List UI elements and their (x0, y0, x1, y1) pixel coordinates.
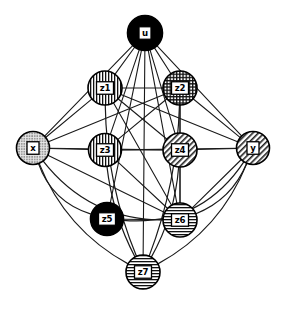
graph-node-z1[interactable]: z1 (88, 71, 122, 105)
graph-edge (192, 159, 242, 208)
node-label-z2: z2 (175, 83, 186, 93)
node-label-y: y (250, 143, 256, 153)
graph-node-x[interactable]: x (17, 132, 50, 165)
graph-edge (143, 50, 145, 256)
graph-node-z5[interactable]: z5 (91, 203, 124, 236)
graph-node-z3[interactable]: z3 (89, 134, 122, 167)
graph-node-u[interactable]: u (128, 16, 163, 51)
graph-canvas: uxyz1z2z3z4z5z6z7 (0, 0, 285, 319)
node-label-z3: z3 (100, 145, 111, 155)
graph-node-z6[interactable]: z6 (163, 203, 197, 237)
node-label-z5: z5 (102, 214, 113, 224)
node-label-z7: z7 (138, 267, 149, 277)
node-label-x: x (30, 143, 36, 153)
graph-node-z7[interactable]: z7 (126, 255, 160, 289)
graph-node-z4[interactable]: z4 (163, 133, 197, 167)
node-label-u: u (142, 28, 148, 38)
graph-figure: uxyz1z2z3z4z5z6z7 (0, 0, 285, 319)
graph-node-z2[interactable]: z2 (163, 71, 197, 105)
graph-edge (45, 99, 92, 138)
graph-node-y[interactable]: y (237, 132, 270, 165)
straight-edge-group (44, 45, 242, 255)
node-label-z6: z6 (175, 215, 186, 225)
graph-edge (123, 219, 164, 220)
graph-edge-curved (38, 163, 91, 214)
node-label-z1: z1 (100, 83, 111, 93)
graph-edge (193, 98, 241, 137)
node-label-z4: z4 (175, 145, 186, 155)
